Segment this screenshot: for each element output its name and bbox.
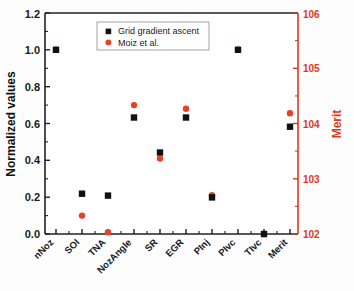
- left-tick-label-2: 0.4: [25, 154, 41, 166]
- xtick-label-nnoz: nNoz: [31, 236, 55, 260]
- left-tick-label-6: 1.2: [25, 8, 40, 20]
- legend-label-moiz-et-al: Moiz et al.: [118, 38, 159, 48]
- scatter-plot: 0.0 0.2 0.4 0.6 0.8 1.0 1.2 102 103 104 …: [0, 0, 354, 291]
- right-tick-label-4: 106: [303, 9, 320, 20]
- point-moiz-nozangle: [131, 102, 137, 108]
- point-grid-pinj: [209, 194, 215, 200]
- point-grid-egr: [183, 114, 189, 120]
- right-tick-label-1: 103: [303, 174, 320, 185]
- xtick-label-egr: EGR: [163, 237, 185, 259]
- left-tick-label-5: 1.0: [25, 44, 40, 56]
- y-axis-title: Normalized values: [4, 71, 18, 177]
- left-tick-label-3: 0.6: [25, 118, 40, 130]
- left-tick-label-0: 0.0: [25, 228, 40, 240]
- xtick-label-soi: SOI: [62, 237, 81, 256]
- xtick-label-pivc: PIvc: [216, 237, 238, 259]
- left-tick-label-1: 0.2: [25, 191, 40, 203]
- point-grid-tna: [105, 192, 111, 198]
- xtick-label-sr: SR: [142, 237, 159, 254]
- xtick-label-merit: Merit: [266, 236, 290, 260]
- legend: Grid gradient ascent Moiz et al.: [97, 22, 209, 50]
- point-moiz-merit: [287, 110, 293, 116]
- point-grid-tivc: [261, 231, 267, 237]
- xtick-label-tna: TNA: [86, 237, 108, 259]
- point-grid-soi: [79, 191, 85, 197]
- right-tick-label-0: 102: [303, 229, 320, 240]
- point-grid-merit: [287, 124, 293, 130]
- left-tick-label-4: 0.8: [25, 81, 40, 93]
- point-grid-nozangle: [131, 114, 137, 120]
- legend-marker-square-icon: [106, 29, 112, 35]
- point-moiz-soi: [79, 212, 85, 218]
- right-tick-label-2: 104: [303, 119, 320, 130]
- point-moiz-tna: [105, 229, 111, 235]
- legend-label-grid-gradient-ascent: Grid gradient ascent: [118, 26, 200, 36]
- right-tick-label-3: 105: [303, 63, 320, 74]
- point-moiz-egr: [183, 106, 189, 112]
- chart-figure: 0.0 0.2 0.4 0.6 0.8 1.0 1.2 102 103 104 …: [0, 0, 354, 291]
- xtick-label-tivc: TIvc: [242, 237, 263, 258]
- xtick-label-pinj: PInj: [191, 237, 211, 257]
- point-grid-nnoz: [53, 47, 59, 53]
- point-moiz-sr: [157, 155, 163, 161]
- legend-marker-circle-icon: [106, 40, 112, 46]
- point-grid-pivc: [235, 47, 241, 53]
- y2-axis-title: Merit: [330, 110, 344, 139]
- point-grid-sr: [157, 149, 163, 155]
